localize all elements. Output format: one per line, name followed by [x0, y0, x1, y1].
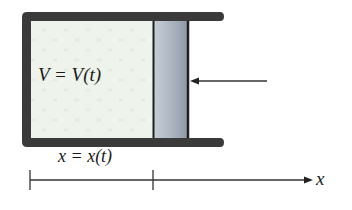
force-arrow [190, 78, 267, 85]
position-label: x = x(t) [58, 146, 112, 167]
piston-diagram [0, 0, 352, 210]
x-axis [30, 170, 313, 190]
volume-label: V = V(t) [38, 64, 101, 86]
piston[interactable] [154, 20, 188, 138]
axis-label: x [316, 168, 324, 190]
